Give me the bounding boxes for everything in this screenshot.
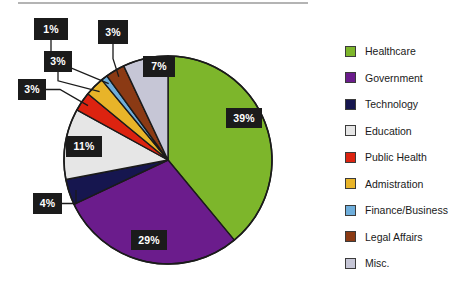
legend-item-label: Finance/Business [365,204,448,216]
pie-value-label: 3% [18,79,46,100]
legend-swatch-icon [345,258,356,269]
legend-swatch-icon [345,72,356,83]
legend-item-label: Technology [365,98,418,110]
pie-chart-area: 39%29%4%11%3%3%1%3%7% [0,0,330,295]
legend-item[interactable]: Legal Affairs [345,224,472,251]
pie-value-label: 3% [98,20,128,44]
legend-swatch-icon [345,205,356,216]
pie-chart-svg [0,0,330,295]
pie-chart-page: 39%29%4%11%3%3%1%3%7% HealthcareGovernme… [0,0,472,295]
legend-item-label: Healthcare [365,45,416,57]
chart-legend: HealthcareGovernmentTechnologyEducationP… [345,38,472,277]
pie-value-label: 4% [33,193,62,214]
legend-item[interactable]: Government [345,65,472,92]
legend-swatch-icon [345,152,356,163]
pie-value-label: 7% [143,56,175,77]
pie-value-label: 3% [44,51,72,72]
legend-item[interactable]: Admistration [345,171,472,198]
legend-swatch-icon [345,178,356,189]
legend-item-label: Misc. [365,257,390,269]
legend-item[interactable]: Technology [345,91,472,118]
legend-item-label: Education [365,125,412,137]
legend-swatch-icon [345,46,356,57]
legend-swatch-icon [345,99,356,110]
legend-item[interactable]: Education [345,118,472,145]
pie-slices-group [64,56,272,264]
legend-item-label: Admistration [365,178,423,190]
pie-value-label: 29% [131,230,167,250]
pie-value-label: 1% [34,18,68,40]
legend-swatch-icon [345,231,356,242]
legend-item[interactable]: Healthcare [345,38,472,65]
legend-item-label: Government [365,72,423,84]
legend-item[interactable]: Misc. [345,250,472,277]
legend-swatch-icon [345,125,356,136]
legend-item[interactable]: Public Health [345,144,472,171]
pie-value-label: 39% [226,108,262,128]
legend-item[interactable]: Finance/Business [345,197,472,224]
pie-value-label: 11% [66,136,102,157]
legend-item-label: Public Health [365,151,427,163]
legend-item-label: Legal Affairs [365,231,423,243]
